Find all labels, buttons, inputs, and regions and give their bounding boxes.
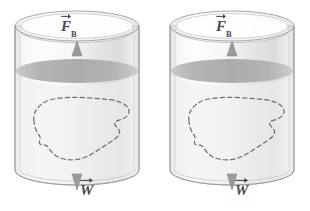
right-buoyant-force-label: F B (216, 18, 232, 37)
right-opening-ellipse (176, 14, 288, 39)
buoyancy-diagram-svg (0, 0, 310, 211)
left-container-group (15, 11, 139, 190)
left-weight-symbol: W (80, 182, 93, 198)
left-weight-symbol-wrap: W (80, 182, 93, 198)
right-container-group (170, 11, 294, 190)
right-weight-symbol-wrap: W (235, 182, 248, 198)
left-buoyant-symbol-wrap: F (61, 18, 71, 34)
left-opening-ellipse (21, 14, 133, 39)
left-weight-force-label: W (80, 182, 93, 198)
right-weight-force-label: W (235, 182, 248, 198)
left-buoyant-force-label: F B (61, 18, 77, 37)
left-buoyant-subscript: B (71, 29, 77, 39)
right-weight-symbol: W (235, 182, 248, 198)
figure-canvas: F B F B W W (0, 0, 310, 211)
right-buoyant-symbol: F (216, 18, 226, 34)
left-buoyant-symbol: F (61, 18, 71, 34)
right-buoyant-symbol-wrap: F (216, 18, 226, 34)
right-buoyant-subscript: B (226, 29, 232, 39)
